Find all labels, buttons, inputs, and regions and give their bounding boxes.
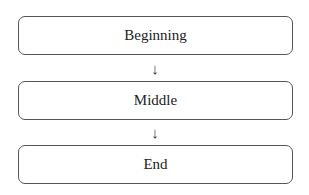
node-middle: Middle <box>18 81 293 120</box>
down-arrow-icon: ↓ <box>148 126 162 141</box>
node-end: End <box>18 145 293 184</box>
node-beginning: Beginning <box>18 16 293 55</box>
down-arrow-icon: ↓ <box>148 62 162 77</box>
node-label: Middle <box>134 92 177 109</box>
node-label: End <box>143 156 167 173</box>
node-label: Beginning <box>124 27 187 44</box>
